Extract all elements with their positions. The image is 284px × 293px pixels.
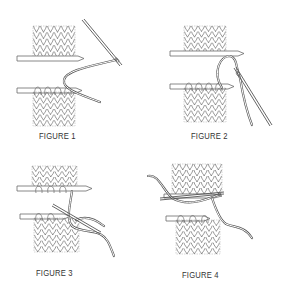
knit-stitch — [180, 164, 186, 170]
upper-knit-fabric — [172, 164, 222, 194]
knit-stitch — [220, 26, 226, 32]
figure-4: FIGURE 4 — [142, 146, 284, 293]
figure-4-caption: FIGURE 4 — [182, 270, 219, 280]
figure-1-caption: FIGURE 1 — [39, 131, 76, 141]
yarn-strand — [217, 56, 252, 125]
knit-stitch — [173, 164, 179, 170]
figure-2: FIGURE 2 — [142, 0, 284, 146]
figure-2-illustration — [142, 0, 284, 146]
knit-stitch — [206, 26, 212, 32]
knit-stitch — [199, 26, 205, 32]
knit-stitch — [40, 166, 47, 172]
upper-knit-fabric — [32, 166, 77, 188]
knit-stitch — [48, 26, 54, 32]
knit-stitch — [192, 26, 198, 32]
knit-stitch — [55, 26, 61, 32]
lower-needle — [20, 214, 70, 219]
knit-stitch — [201, 164, 207, 170]
knit-stitch — [33, 166, 40, 172]
upper-needle — [17, 186, 92, 191]
figure-1: FIGURE 1 — [0, 0, 142, 146]
knit-stitch — [194, 164, 200, 170]
fabric-edge — [172, 164, 222, 194]
figure-3-caption: FIGURE 3 — [36, 268, 73, 278]
knit-stitch — [215, 164, 221, 170]
upper-knit-fabric — [184, 26, 226, 54]
lower-knit-fabric — [33, 92, 75, 126]
knit-stitch — [41, 26, 47, 32]
lower-knit-fabric — [34, 218, 79, 252]
knit-stitch — [62, 26, 68, 32]
knit-stitch — [187, 164, 193, 170]
yarn-strand — [64, 60, 116, 102]
knit-stitch — [208, 164, 214, 170]
knit-stitch — [55, 166, 62, 172]
figure-1-illustration — [0, 0, 142, 146]
upper-knit-fabric — [33, 26, 75, 58]
figure-3: FIGURE 3 — [0, 146, 142, 293]
figure-2-caption: FIGURE 2 — [191, 131, 228, 141]
knit-stitch — [34, 26, 40, 32]
knit-stitch — [206, 220, 212, 226]
tapestry-needle — [234, 67, 272, 126]
knit-stitch — [70, 166, 77, 172]
lower-needle — [166, 216, 210, 221]
knit-stitch — [63, 166, 70, 172]
knit-stitch — [185, 26, 191, 32]
knit-stitch — [69, 26, 75, 32]
knit-stitch — [213, 26, 219, 32]
knit-stitch — [48, 166, 55, 172]
lower-knit-fabric — [184, 88, 226, 122]
knit-stitch — [213, 220, 219, 226]
lower-knit-fabric — [176, 220, 220, 254]
upper-needle — [17, 56, 84, 61]
upper-needle — [170, 51, 244, 56]
